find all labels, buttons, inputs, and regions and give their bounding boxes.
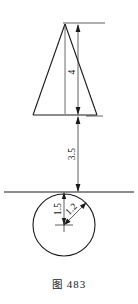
figure-container: 4 3.5 1.5 1.2 图 48 [0,0,138,304]
cone-right-edge [65,24,97,115]
dimension-line-circle-radius: 1.2 [63,201,86,225]
dimension-line-gap: 3.5 [67,116,81,192]
dim-15-arrow-top [62,192,66,199]
cone-left-edge [33,24,65,115]
dim-label-cone-height: 4 [67,69,77,74]
dim-4-arrow-bottom [76,107,81,115]
figure-caption: 图 483 [0,276,138,291]
dim-label-gap-distance: 3.5 [67,148,77,161]
dim-label-circle-radius: 1.2 [63,201,79,217]
dim-35-arrow-top [76,116,81,124]
dim-35-arrow-bottom [76,184,81,192]
caption-number: 483 [67,278,87,290]
dimension-line-cone-height: 4 [67,24,81,115]
cone-triangle-group [33,24,97,115]
dim-4-arrow-top [76,24,81,32]
dim-label-circle-offset: 1.5 [53,203,63,216]
technical-drawing-canvas: 4 3.5 1.5 1.2 [0,0,138,304]
caption-symbol: 图 [52,278,63,290]
